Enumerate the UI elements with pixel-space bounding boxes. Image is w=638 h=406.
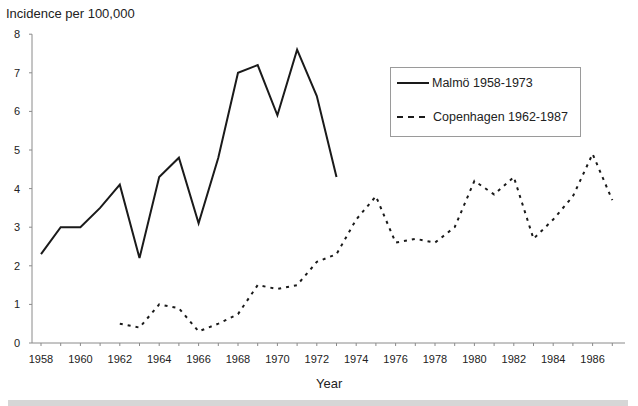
x-tick-label: 1980 <box>462 353 486 365</box>
legend: Malmö 1958-1973 Copenhagen 1962-1987 <box>390 67 581 137</box>
copenhagen-series-line <box>120 154 613 332</box>
y-tick-label: 1 <box>14 298 20 310</box>
y-tick-label: 5 <box>14 144 20 156</box>
legend-item-malmo: Malmö 1958-1973 <box>397 76 533 90</box>
x-tick-label: 1976 <box>383 353 407 365</box>
x-tick-label: 1960 <box>68 353 92 365</box>
bottom-divider <box>8 400 628 406</box>
x-axis-title: Year <box>316 376 342 391</box>
y-tick-label: 8 <box>14 28 20 40</box>
legend-label-copenhagen: Copenhagen 1962-1987 <box>433 110 568 124</box>
x-tick-label: 1972 <box>305 353 329 365</box>
y-tick-label: 2 <box>14 260 20 272</box>
malmo-series-line <box>41 50 337 259</box>
x-tick-label: 1968 <box>226 353 250 365</box>
x-tick-label: 1982 <box>502 353 526 365</box>
legend-item-copenhagen: Copenhagen 1962-1987 <box>397 110 568 124</box>
x-tick-label: 1974 <box>344 353 368 365</box>
solid-line-swatch-icon <box>397 82 429 84</box>
y-tick-label: 7 <box>14 67 20 79</box>
line-chart: 0123456781958196019621964196619681970197… <box>0 0 638 406</box>
legend-label-malmo: Malmö 1958-1973 <box>432 76 533 90</box>
y-axis-title: Incidence per 100,000 <box>6 6 135 21</box>
x-tick-label: 1984 <box>541 353 565 365</box>
x-tick-label: 1962 <box>108 353 132 365</box>
y-tick-label: 3 <box>14 221 20 233</box>
x-tick-label: 1966 <box>186 353 210 365</box>
x-tick-label: 1986 <box>580 353 604 365</box>
y-tick-label: 4 <box>14 183 20 195</box>
y-tick-label: 6 <box>14 105 20 117</box>
x-tick-label: 1964 <box>147 353 171 365</box>
dashed-line-swatch-icon <box>397 116 425 118</box>
x-tick-label: 1970 <box>265 353 289 365</box>
x-tick-label: 1978 <box>423 353 447 365</box>
x-tick-label: 1958 <box>29 353 53 365</box>
y-tick-label: 0 <box>14 337 20 349</box>
